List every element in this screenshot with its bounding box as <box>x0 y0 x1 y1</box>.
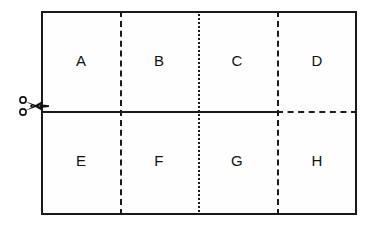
cell-label-h: H <box>297 152 337 170</box>
cell-label-b: B <box>139 52 179 70</box>
diagram-canvas: A B C D E F G H <box>0 0 380 235</box>
cell-label-a: A <box>61 52 101 70</box>
scissors-icon <box>18 93 50 121</box>
horizontal-divider-dashed-segment <box>277 111 357 113</box>
cell-label-c: C <box>217 52 257 70</box>
horizontal-divider-solid-segment <box>41 111 277 113</box>
vertical-divider-dotted-2 <box>198 11 200 215</box>
cell-label-e: E <box>61 152 101 170</box>
vertical-divider-dashed-3 <box>277 11 279 215</box>
cell-label-d: D <box>297 52 337 70</box>
cell-label-f: F <box>139 152 179 170</box>
vertical-divider-dashed-1 <box>120 11 122 215</box>
cell-label-g: G <box>217 152 257 170</box>
